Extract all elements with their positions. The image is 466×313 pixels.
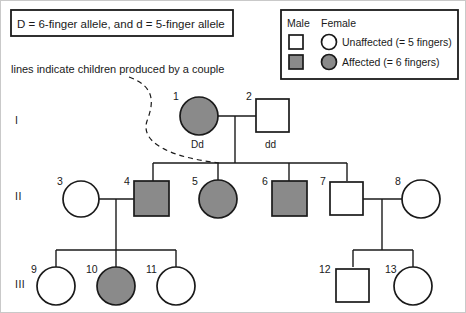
legend-male-affected-icon (289, 55, 303, 69)
legend-header-male: Male (287, 17, 310, 29)
individual-1-id: 1 (173, 90, 179, 102)
individual-7-symbol[interactable] (330, 182, 363, 215)
legend-male-unaffected-icon (289, 35, 303, 49)
individual-8-id: 8 (395, 175, 401, 187)
legend-female-unaffected-icon (322, 35, 337, 50)
legend-label-unaffected: Unaffected (= 5 fingers) (342, 36, 452, 48)
individual-2-id: 2 (246, 90, 252, 102)
individual-1-symbol[interactable] (180, 97, 218, 135)
individual-5-symbol[interactable] (199, 180, 237, 218)
individual-7-id: 7 (320, 175, 326, 187)
individual-12-id: 12 (319, 263, 331, 275)
generation-label-i: I (15, 114, 18, 126)
pedigree-diagram: D = 6-finger allele, and d = 5-finger al… (1, 1, 466, 313)
individual-12-symbol[interactable] (336, 269, 369, 302)
individual-6-id: 6 (262, 175, 268, 187)
individual-11-id: 11 (146, 263, 157, 275)
individual-4-symbol[interactable] (134, 181, 169, 216)
individual-9-symbol[interactable] (37, 267, 75, 305)
individual-10-symbol[interactable] (97, 267, 135, 305)
individual-9-id: 9 (31, 263, 37, 275)
individual-13-symbol[interactable] (394, 267, 432, 305)
individual-4-id: 4 (124, 175, 130, 187)
individual-1-genotype: Dd (191, 139, 204, 150)
individual-3-id: 3 (57, 175, 63, 187)
annotation-text: lines indicate children produced by a co… (11, 63, 224, 75)
individual-3-symbol[interactable] (63, 181, 99, 217)
individual-2-genotype: dd (265, 139, 276, 150)
pedigree-figure: D = 6-finger allele, and d = 5-finger al… (0, 0, 466, 313)
individual-11-symbol[interactable] (157, 267, 195, 305)
generation-label-ii: II (15, 190, 22, 202)
individual-13-id: 13 (385, 263, 397, 275)
allele-key-text: D = 6-finger allele, and d = 5-finger al… (17, 18, 225, 30)
generation-label-iii: III (15, 278, 25, 290)
individual-5-id: 5 (192, 175, 198, 187)
individual-10-id: 10 (86, 263, 98, 275)
legend-label-affected: Affected (= 6 fingers) (342, 56, 440, 68)
individual-6-symbol[interactable] (272, 181, 307, 216)
individual-8-symbol[interactable] (402, 180, 440, 218)
legend-female-affected-icon (322, 55, 337, 70)
individual-2-symbol[interactable] (256, 99, 289, 132)
legend-header-female: Female (321, 17, 356, 29)
